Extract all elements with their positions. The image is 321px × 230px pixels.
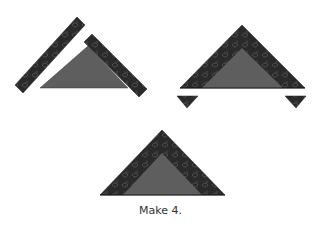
diagram-canvas [0, 0, 321, 230]
instruction-caption: Make 4. [0, 204, 321, 217]
trimmed-overhang-left [177, 96, 198, 108]
step-strips-separate [15, 17, 147, 97]
trimmed-overhang-right [285, 96, 306, 108]
step-strips-sewn [177, 25, 306, 108]
step-finished-unit [100, 130, 225, 195]
